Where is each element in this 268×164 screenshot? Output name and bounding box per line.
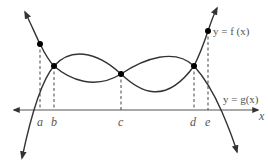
tick-label-a: a <box>37 115 43 129</box>
label-g: y = g(x) <box>223 93 259 106</box>
intersection-b <box>51 63 57 69</box>
tick-label-d: d <box>190 115 197 129</box>
point-f-e <box>205 28 211 34</box>
tick-label-b: b <box>51 115 57 129</box>
intersection-d <box>191 63 197 69</box>
intersection-c <box>118 71 124 77</box>
function-graph: a b c d e x y = f (x) y = g(x) <box>0 0 268 164</box>
label-f: y = f (x) <box>213 25 250 38</box>
tick-label-c: c <box>118 115 124 129</box>
x-axis-label: x <box>258 109 265 123</box>
tick-label-e: e <box>205 115 211 129</box>
point-f-a <box>37 41 43 47</box>
